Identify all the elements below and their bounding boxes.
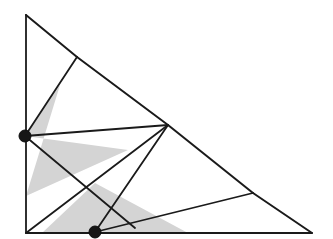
figure-container: [0, 0, 333, 239]
bottom-marked-vertex[interactable]: [89, 226, 101, 238]
triangulation-figure: [0, 0, 333, 239]
left-marked-vertex[interactable]: [19, 130, 31, 142]
